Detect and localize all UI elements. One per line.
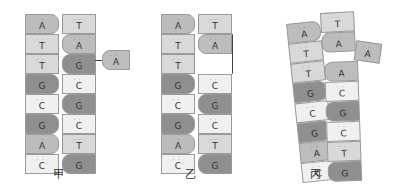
base-g: ··G — [198, 154, 232, 174]
base-a: ··A — [324, 61, 359, 82]
base-t: ··T — [198, 134, 232, 154]
base-t: ··T — [320, 11, 355, 33]
base-g: ··G — [25, 114, 59, 134]
base-t: ··T — [62, 14, 96, 34]
base-c: ··C — [62, 114, 96, 134]
base-c: ··C — [326, 121, 361, 142]
base-t: ··T — [62, 134, 96, 154]
connector — [95, 60, 102, 61]
base-g: ··G — [325, 101, 360, 122]
base-c: ··C — [198, 114, 232, 134]
base-a: ··A — [198, 34, 232, 54]
base-t: ··T — [25, 54, 59, 74]
panel-label: 丙 — [310, 165, 321, 181]
free-nucleotide: ··A — [354, 40, 383, 63]
base-a: ··A — [25, 14, 59, 34]
panel-label: 甲 — [53, 165, 64, 181]
base-g: ··G — [62, 154, 96, 174]
base-c: ··C — [325, 81, 360, 102]
base-g: ··G — [25, 74, 59, 94]
base-g: ··G — [198, 94, 232, 114]
base-a: ··A — [161, 14, 195, 34]
base-t: ··T — [161, 34, 195, 54]
base-c: ··C — [161, 94, 195, 114]
base-t: ··T — [327, 141, 362, 162]
base-a: ··A — [62, 34, 96, 54]
base-t: ··T — [161, 54, 195, 74]
base-a: ··A — [25, 134, 59, 154]
base-g: ··G — [327, 161, 362, 182]
base-g: ··G — [62, 94, 96, 114]
free-nucleotide: ··A — [102, 50, 130, 70]
panel-jia: ··A ··T ··T ··G ··C ··G ··A ··C ··T ··A … — [0, 0, 140, 193]
base-c: ··C — [198, 74, 232, 94]
base-t: ··T — [25, 34, 59, 54]
panel-bing: ··A ··T ··T ··G ··C ··G ··A ··C ··T ··A … — [260, 0, 400, 193]
base-g: ··G — [62, 54, 96, 74]
panel-label: 乙 — [185, 165, 196, 181]
base-a: ··A — [321, 31, 356, 53]
base-c: ··C — [25, 94, 59, 114]
base-t: ··T — [198, 14, 232, 34]
panel-yi: ··A ··T ··T ··G ··C ··G ··A ··C ··T ··A … — [140, 0, 260, 193]
base-a: ··A — [161, 134, 195, 154]
base-g: ··G — [161, 74, 195, 94]
base-c: ··C — [62, 74, 96, 94]
base-g: ··G — [161, 114, 195, 134]
gap-link — [232, 34, 233, 74]
